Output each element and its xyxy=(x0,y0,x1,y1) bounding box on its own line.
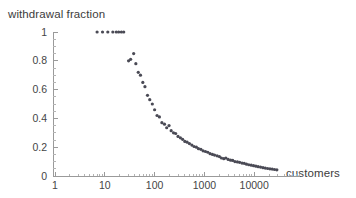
data-point xyxy=(141,81,144,84)
data-point xyxy=(111,30,114,33)
data-point xyxy=(174,132,177,135)
data-point xyxy=(158,115,161,118)
data-point xyxy=(106,30,109,33)
data-point xyxy=(137,71,140,74)
data-point xyxy=(139,74,142,77)
data-point xyxy=(153,108,156,111)
y-axis-tick-label: 0.2 xyxy=(32,141,47,153)
data-point xyxy=(132,52,135,55)
y-axis: 00.20.40.60.81 xyxy=(32,26,57,182)
data-point xyxy=(129,58,132,61)
data-point xyxy=(101,30,104,33)
data-point xyxy=(122,30,125,33)
data-point xyxy=(143,85,146,88)
data-point xyxy=(170,129,173,132)
x-axis-tick-label: 10000 xyxy=(240,179,269,191)
data-point xyxy=(146,94,149,97)
x-axis-tick-label: 1 xyxy=(52,179,58,191)
data-point xyxy=(163,123,166,126)
data-point xyxy=(167,124,170,127)
data-point xyxy=(134,62,137,65)
y-axis-tick-label: 0 xyxy=(41,170,47,182)
y-axis-tick-label: 0.6 xyxy=(32,83,47,95)
data-point xyxy=(95,30,98,33)
data-series-withdrawal-fraction xyxy=(95,30,278,171)
x-axis-tick-label: 1000 xyxy=(193,179,217,191)
data-point xyxy=(151,102,154,105)
y-axis-tick-label: 0.4 xyxy=(32,112,47,124)
data-point xyxy=(275,168,278,171)
chart-figure: withdrawal fraction customers 1101001000… xyxy=(0,0,356,198)
x-axis: 110100100010000 xyxy=(52,172,300,192)
x-axis-tick-label: 10 xyxy=(99,179,111,191)
data-point xyxy=(165,126,168,129)
y-axis-tick-label: 0.8 xyxy=(32,54,47,66)
x-axis-tick-label: 100 xyxy=(146,179,164,191)
y-axis-tick-label: 1 xyxy=(41,26,47,38)
data-point xyxy=(148,98,151,101)
scatter-plot-canvas: 110100100010000 00.20.40.60.81 xyxy=(0,0,356,198)
